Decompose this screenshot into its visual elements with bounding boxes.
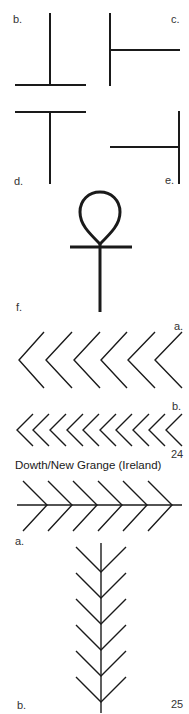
horizontal-herringbone — [17, 481, 182, 531]
label-b-tree: b. — [17, 700, 26, 711]
label-f: f. — [16, 302, 22, 313]
ankh-sign — [70, 192, 132, 312]
figure-number-25: 25 — [171, 699, 183, 710]
label-d: d. — [14, 176, 23, 187]
figure-number-24: 24 — [171, 449, 183, 460]
right-t-sign — [110, 13, 180, 86]
label-e: e. — [165, 175, 174, 186]
chevron-row-small — [17, 414, 182, 446]
figure-canvas — [0, 0, 189, 714]
inverted-t-sign — [15, 13, 86, 85]
chevron-row-large — [19, 332, 182, 388]
label-c: c. — [171, 14, 180, 25]
label-a-herringbone: a. — [15, 536, 24, 547]
t-sign — [15, 112, 86, 184]
caption: Dowth/New Grange (Ireland) — [15, 460, 161, 472]
vertical-tree — [76, 543, 126, 713]
label-b-top: b. — [13, 14, 22, 25]
label-b-chevrons: b. — [172, 401, 181, 412]
label-a-chevrons: a. — [174, 321, 183, 332]
